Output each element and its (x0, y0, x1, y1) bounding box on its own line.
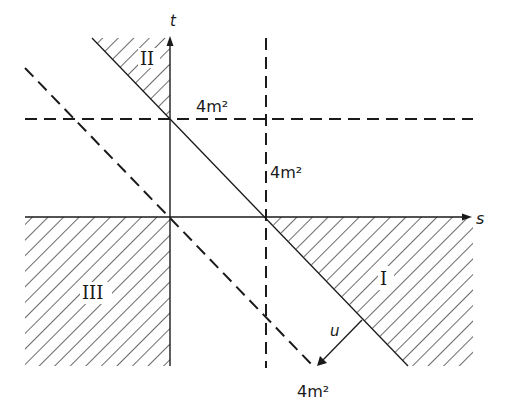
u-threshold-label: 4m² (297, 382, 329, 401)
t-threshold-label: 4m² (196, 97, 228, 116)
region-i-hatch (266, 217, 473, 366)
t-axis-label: t (170, 12, 177, 30)
region-iii-label: III (82, 282, 103, 303)
u-axis-label: u (330, 322, 340, 340)
region-ii-label: II (140, 48, 154, 69)
s-axis-label: s (476, 209, 484, 228)
u-axis (322, 320, 362, 361)
mandelstam-diagram: t s u 4m² 4m² 4m² II III I (0, 0, 511, 409)
s-threshold-label: 4m² (270, 163, 302, 182)
region-i-label: I (380, 268, 387, 289)
